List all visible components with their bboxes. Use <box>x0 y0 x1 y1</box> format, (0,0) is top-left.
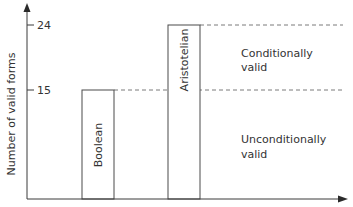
bar-label-aristotelian: Aristotelian <box>178 29 191 92</box>
chart-canvas: Boolean Aristotelian 24 15 Number of val… <box>0 0 353 207</box>
tick-label-24: 24 <box>37 19 51 32</box>
region-label-unconditional-2: valid <box>241 148 267 161</box>
region-label-conditional-1: Conditionally <box>241 47 313 60</box>
region-label-conditional-2: valid <box>241 61 267 74</box>
region-label-unconditional-1: Unconditionally <box>241 133 327 146</box>
y-axis-label: Number of valid forms <box>5 52 18 175</box>
y-axis-arrow-icon <box>24 3 31 12</box>
tick-label-15: 15 <box>37 84 51 97</box>
bar-label-boolean: Boolean <box>92 123 105 168</box>
x-axis-arrow-icon <box>338 196 348 203</box>
